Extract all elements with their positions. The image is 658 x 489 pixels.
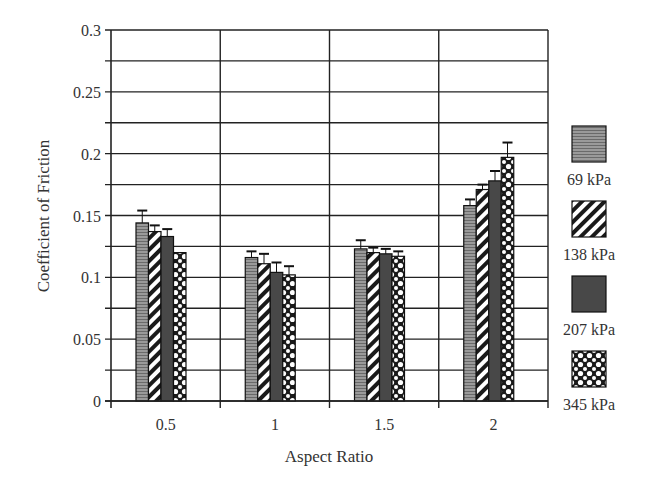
legend-swatch (572, 276, 606, 312)
bar-groups (136, 143, 514, 401)
bar-group (464, 143, 514, 401)
y-axis-title: Coefficient of Friction (34, 139, 53, 292)
bar (149, 232, 162, 401)
x-tick-label: 1.5 (374, 416, 394, 433)
legend-label: 345 kPa (563, 396, 615, 413)
x-axis-title: Aspect Ratio (285, 447, 373, 466)
legend-swatch (572, 201, 606, 237)
bar (258, 264, 271, 401)
legend-item: 207 kPa (563, 276, 615, 338)
legend-item: 138 kPa (563, 201, 615, 263)
x-tick-label: 2 (489, 416, 497, 433)
bar (283, 275, 296, 401)
bar (392, 256, 405, 401)
y-tick-label: 0.2 (81, 146, 101, 163)
bar (501, 157, 514, 401)
bar (489, 181, 502, 401)
bar-group (136, 211, 186, 401)
bar (245, 258, 258, 401)
bar (355, 249, 368, 401)
y-tick-label: 0.1 (81, 269, 101, 286)
x-tick-label: 1 (271, 416, 279, 433)
legend-swatch (572, 351, 606, 387)
bar (161, 237, 174, 401)
y-tick-label: 0.05 (73, 331, 101, 348)
y-tick-label: 0.15 (73, 208, 101, 225)
legend-item: 345 kPa (563, 351, 615, 413)
legend-swatch (572, 126, 606, 162)
bar (174, 253, 187, 401)
legend-label: 207 kPa (563, 321, 615, 338)
bar-chart: 00.050.10.150.20.250.30.511.52 Aspect Ra… (0, 0, 658, 489)
x-tick-label: 0.5 (156, 416, 176, 433)
bar (136, 223, 149, 401)
bar (270, 272, 283, 401)
legend: 69 kPa138 kPa207 kPa345 kPa (563, 126, 615, 413)
bar (367, 253, 380, 401)
y-tick-label: 0 (93, 393, 101, 410)
bar (476, 190, 489, 401)
legend-label: 69 kPa (567, 171, 611, 188)
bar (464, 206, 477, 401)
bar (380, 254, 393, 401)
legend-item: 69 kPa (567, 126, 611, 188)
bar-group (355, 240, 405, 401)
y-tick-label: 0.25 (73, 84, 101, 101)
bar-group (245, 251, 295, 401)
y-tick-label: 0.3 (81, 22, 101, 39)
legend-label: 138 kPa (563, 246, 615, 263)
